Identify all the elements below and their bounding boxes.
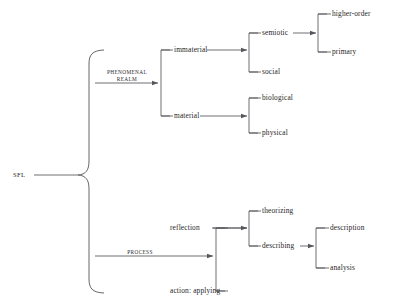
bracket-process	[216, 228, 225, 291]
bracket-reflection	[249, 211, 258, 246]
node-reflection: reflection	[170, 224, 200, 231]
node-analysis: analysis	[330, 264, 355, 271]
root-brace	[78, 50, 104, 293]
node-sfl: SFL	[13, 172, 25, 179]
node-action-applying: action: applying	[170, 287, 220, 294]
node-physical: physical	[262, 129, 288, 136]
edge-label-process: PROCESS	[105, 249, 175, 256]
edge-label-phenomenal-realm: PHENOMENAL REALM	[98, 69, 156, 83]
node-social: social	[262, 68, 280, 75]
edge-label-phenomenal-line1: PHENOMENAL	[98, 69, 156, 76]
bracket-immaterial	[249, 33, 258, 72]
bracket-semiotic	[318, 14, 327, 52]
bracket-describing	[316, 228, 325, 268]
node-higher-order: higher-order	[332, 10, 371, 17]
node-describing: describing	[262, 242, 294, 249]
node-semiotic: semiotic	[262, 29, 288, 36]
node-primary: primary	[332, 48, 356, 55]
edge-label-phenomenal-line2: REALM	[98, 76, 156, 83]
node-material: material	[174, 112, 199, 119]
node-theorizing: theorizing	[262, 207, 293, 214]
sfl-tree-diagram: SFL PHENOMENAL REALM PROCESS immaterial …	[0, 0, 396, 307]
node-immaterial: immaterial	[174, 46, 208, 53]
bracket-phenomenal	[161, 50, 170, 116]
node-description: description	[330, 224, 365, 231]
bracket-material	[249, 98, 258, 133]
node-biological: biological	[262, 94, 293, 101]
